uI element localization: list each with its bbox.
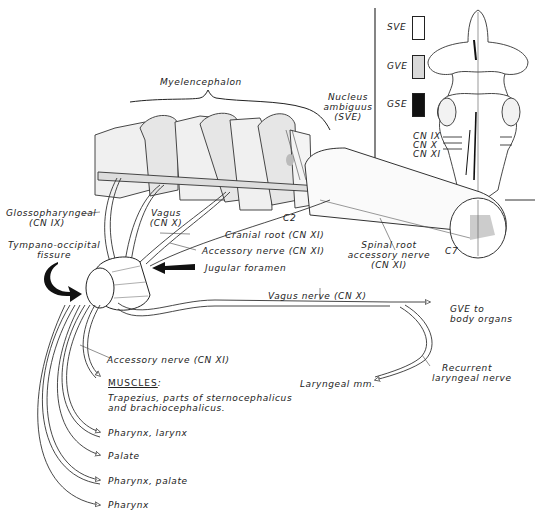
inset-label-cn-xi: CN XI <box>413 149 441 159</box>
label-line: body organs <box>450 314 513 324</box>
label-line: Glossopharyngeal <box>6 208 88 218</box>
label-jugular-foramen: Jugular foramen <box>205 263 286 273</box>
medulla-segments <box>95 113 312 210</box>
label-glossopharyngeal: Glossopharyngeal (CN IX) <box>6 208 88 228</box>
target-pharynx-palate: Pharynx, palate <box>108 476 188 486</box>
label-line: (CN IX) <box>6 218 88 228</box>
legend-swatch-sve <box>412 16 425 40</box>
label-line: (CN X) <box>146 218 186 228</box>
label-line: Vagus <box>146 208 186 218</box>
target-pharynx: Pharynx <box>108 500 149 510</box>
target-pharynx-larynx: Pharynx, larynx <box>108 428 188 438</box>
jugular-foramen-arrow-icon <box>152 262 195 274</box>
brainstem-inset-icon <box>428 10 528 200</box>
label-recurrent-laryngeal: Recurrent laryngeal nerve <box>432 363 512 383</box>
label-accessory-nerve-lower: Accessory nerve (CN XI) <box>107 355 230 365</box>
label-line: ambiguus <box>318 102 378 112</box>
label-line: GVE to <box>450 304 513 314</box>
legend-label-gve: GVE <box>387 61 408 71</box>
legend-label-sve: SVE <box>387 22 406 32</box>
label-line: laryngeal nerve <box>432 373 512 383</box>
label-c7: C7 <box>445 246 458 256</box>
legend-label-gse: GSE <box>387 99 407 109</box>
label-spinal-root: Spinal root accessory nerve (CN XI) <box>344 240 434 270</box>
target-palate: Palate <box>108 451 140 461</box>
label-line: (CN XI) <box>344 260 434 270</box>
muscles-heading-colon: : <box>158 378 162 388</box>
label-line: Nucleus <box>318 92 378 102</box>
label-laryngeal-mm: Laryngeal mm. <box>300 379 376 389</box>
label-vagus-nerve: Vagus nerve (CN X) <box>268 291 367 301</box>
jugular-foramen-ring <box>86 257 150 310</box>
tympano-occipital-arrow-icon <box>44 262 82 302</box>
label-nucleus-ambiguus: Nucleus ambiguus (SVE) <box>318 92 378 122</box>
label-accessory-nerve-upper: Accessory nerve (CN XI) <box>202 246 325 256</box>
label-line: accessory nerve <box>344 250 434 260</box>
legend-swatch-gve <box>412 55 425 79</box>
label-line: Recurrent <box>432 363 512 373</box>
label-gve-body-organs: GVE to body organs <box>450 304 513 324</box>
label-line: Spinal root <box>344 240 434 250</box>
label-line: (SVE) <box>318 112 378 122</box>
label-cranial-root: Cranial root (CN XI) <box>225 230 324 240</box>
label-vagus: Vagus (CN X) <box>146 208 186 228</box>
label-line: Tympano-occipital <box>8 240 100 250</box>
label-c2: C2 <box>283 213 296 223</box>
muscles-heading-text: MUSCLES <box>108 378 158 388</box>
label-line: fissure <box>8 250 100 260</box>
label-myelencephalon: Myelencephalon <box>160 77 242 87</box>
label-line: Trapezius, parts of sternocephalicus <box>108 393 292 403</box>
label-line: and brachiocephalicus. <box>108 403 292 413</box>
muscles-description: Trapezius, parts of sternocephalicus and… <box>108 393 292 413</box>
legend-swatch-gse <box>412 93 425 117</box>
label-tympano-occipital-fissure: Tympano-occipital fissure <box>8 240 100 260</box>
muscles-heading: MUSCLES: <box>108 378 161 388</box>
